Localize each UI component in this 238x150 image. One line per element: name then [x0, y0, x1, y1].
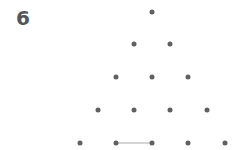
grid-dot[interactable]: [168, 42, 173, 47]
grid-dot[interactable]: [114, 75, 119, 80]
grid-dot[interactable]: [132, 108, 137, 113]
grid-dot[interactable]: [114, 141, 119, 146]
grid-dot[interactable]: [186, 141, 191, 146]
grid-dot[interactable]: [168, 108, 173, 113]
grid-dot[interactable]: [205, 108, 210, 113]
grid-dot[interactable]: [96, 108, 101, 113]
grid-dot[interactable]: [150, 141, 155, 146]
connection-line: [116, 142, 152, 144]
grid-dot[interactable]: [132, 42, 137, 47]
dot-grid-board[interactable]: [0, 0, 238, 150]
grid-dot[interactable]: [150, 10, 155, 15]
grid-dot[interactable]: [223, 141, 228, 146]
grid-dot[interactable]: [150, 75, 155, 80]
grid-dot[interactable]: [78, 141, 83, 146]
grid-dot[interactable]: [186, 75, 191, 80]
